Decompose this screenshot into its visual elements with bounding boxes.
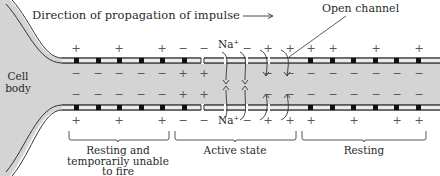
region-braces: [69, 131, 426, 142]
svg-text:−: −: [93, 88, 102, 101]
svg-text:+: +: [392, 114, 401, 127]
svg-text:−: −: [242, 114, 251, 127]
svg-text:+: +: [157, 114, 166, 127]
svg-text:−: −: [392, 67, 401, 80]
open-channel-label: Open channel: [322, 2, 400, 15]
svg-text:+: +: [199, 88, 208, 101]
svg-text:−: −: [414, 67, 423, 80]
svg-text:−: −: [157, 67, 166, 80]
propagation-direction-label: Direction of propagation of impulse: [32, 8, 240, 22]
svg-text:−: −: [392, 88, 401, 101]
svg-text:−: −: [306, 67, 315, 80]
svg-text:+: +: [178, 88, 187, 101]
svg-text:−: −: [349, 88, 358, 101]
svg-text:+: +: [328, 42, 337, 55]
svg-text:−: −: [199, 114, 208, 127]
sodium-label-bottom: Na⁺: [218, 114, 239, 126]
svg-text:−: −: [136, 88, 145, 101]
svg-text:+: +: [114, 114, 123, 127]
svg-text:+: +: [178, 67, 187, 80]
region-label-refractory-3: to fire: [102, 165, 134, 176]
charges-bottom-outside: + + + − − − + + + + + +: [71, 114, 423, 127]
charges-top-outside: + + + − − − + + + + + +: [71, 42, 423, 55]
svg-text:+: +: [263, 42, 272, 55]
svg-text:−: −: [71, 88, 80, 101]
svg-text:−: −: [157, 88, 166, 101]
svg-text:+: +: [371, 42, 380, 55]
svg-text:+: +: [263, 114, 272, 127]
cell-body-label: Cell: [8, 70, 30, 82]
svg-text:+: +: [414, 114, 423, 127]
svg-text:+: +: [157, 42, 166, 55]
svg-text:−: −: [242, 42, 251, 55]
svg-text:−: −: [328, 67, 337, 80]
sodium-label-top: Na⁺: [218, 38, 239, 50]
svg-text:+: +: [71, 114, 80, 127]
svg-text:−: −: [114, 88, 123, 101]
svg-text:−: −: [263, 67, 272, 80]
svg-text:+: +: [285, 42, 294, 55]
action-potential-diagram: Direction of propagation of impulse Open…: [0, 0, 440, 176]
svg-text:+: +: [414, 42, 423, 55]
svg-text:+: +: [114, 42, 123, 55]
svg-text:−: −: [93, 67, 102, 80]
svg-text:−: −: [136, 67, 145, 80]
svg-text:+: +: [349, 114, 358, 127]
svg-text:−: −: [71, 67, 80, 80]
svg-text:−: −: [178, 114, 187, 127]
cell-body-label-2: body: [5, 82, 31, 94]
svg-text:+: +: [306, 42, 315, 55]
svg-text:+: +: [285, 114, 294, 127]
svg-text:+: +: [306, 114, 315, 127]
region-label-active: Active state: [203, 144, 267, 156]
svg-text:−: −: [178, 42, 187, 55]
svg-text:−: −: [306, 88, 315, 101]
svg-text:−: −: [285, 67, 294, 80]
svg-text:+: +: [199, 67, 208, 80]
svg-text:−: −: [199, 42, 208, 55]
svg-text:−: −: [114, 67, 123, 80]
svg-text:+: +: [71, 42, 80, 55]
svg-text:−: −: [414, 88, 423, 101]
svg-text:−: −: [328, 88, 337, 101]
region-label-resting: Resting: [344, 144, 385, 156]
svg-text:−: −: [371, 67, 380, 80]
svg-text:−: −: [263, 88, 272, 101]
svg-text:−: −: [371, 88, 380, 101]
svg-text:−: −: [285, 88, 294, 101]
svg-text:−: −: [349, 67, 358, 80]
